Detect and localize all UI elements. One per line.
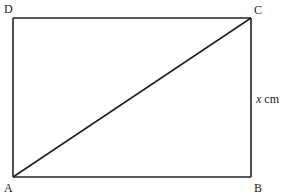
rectangle-diagram <box>0 0 282 196</box>
side-bc-length-label: x cm <box>256 93 279 105</box>
vertex-label-a: A <box>4 182 13 194</box>
vertex-label-d: D <box>4 3 13 15</box>
vertex-label-b: B <box>254 182 262 194</box>
side-bc-unit: cm <box>261 92 279 106</box>
diagonal-ac <box>13 18 251 177</box>
vertex-label-c: C <box>254 4 262 16</box>
